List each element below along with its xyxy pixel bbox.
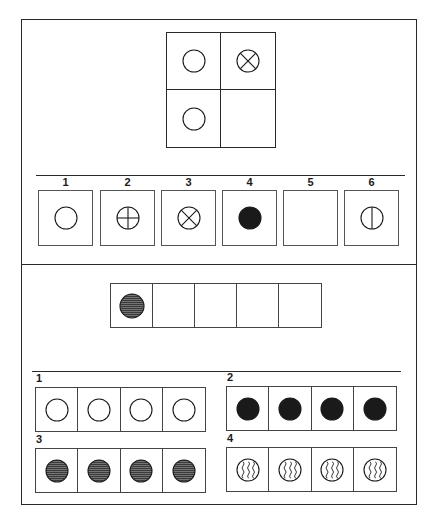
blank-icon bbox=[173, 305, 174, 306]
option-cell bbox=[121, 388, 163, 431]
blank-icon bbox=[310, 218, 311, 219]
circle-hatched-icon bbox=[86, 458, 112, 484]
circle-empty-icon bbox=[181, 48, 207, 74]
circle-empty-icon bbox=[44, 397, 70, 423]
answer-option-4[interactable] bbox=[226, 447, 397, 492]
sequence-cell bbox=[195, 284, 237, 327]
option-number: 4 bbox=[222, 176, 277, 188]
circle-hatched-icon bbox=[171, 458, 197, 484]
circle-filled-icon bbox=[277, 396, 303, 422]
circle-empty-icon bbox=[86, 397, 112, 423]
circle-filled-icon bbox=[235, 396, 261, 422]
circle-x-icon bbox=[235, 48, 261, 74]
answer-option-6[interactable] bbox=[344, 190, 399, 246]
circle-wavy-icon bbox=[319, 457, 345, 483]
option-cell bbox=[312, 387, 354, 430]
puzzle-2-options-rule bbox=[32, 371, 401, 372]
blank-icon bbox=[248, 118, 249, 119]
answer-option-1[interactable] bbox=[38, 190, 93, 246]
option-cell bbox=[227, 387, 269, 430]
circle-hatched-icon bbox=[44, 458, 70, 484]
section-divider bbox=[21, 264, 417, 265]
circle-filled-icon bbox=[237, 205, 263, 231]
circle-wavy-icon bbox=[277, 457, 303, 483]
option-cell bbox=[269, 387, 311, 430]
circle-filled-icon bbox=[319, 396, 345, 422]
option-cell bbox=[78, 388, 120, 431]
circle-wavy-icon bbox=[362, 457, 388, 483]
puzzle-1-matrix bbox=[166, 32, 276, 148]
option-cell bbox=[163, 388, 205, 431]
option-number: 6 bbox=[344, 176, 399, 188]
option-cell bbox=[36, 388, 78, 431]
sequence-cell bbox=[237, 284, 279, 327]
circle-hatched-icon bbox=[128, 458, 154, 484]
circle-empty-icon bbox=[181, 106, 207, 132]
circle-filled-icon bbox=[362, 396, 388, 422]
answer-option-2[interactable] bbox=[226, 386, 397, 431]
option-number: 2 bbox=[100, 176, 155, 188]
option-number: 1 bbox=[36, 372, 42, 384]
option-number: 4 bbox=[227, 432, 233, 444]
blank-icon bbox=[257, 305, 258, 306]
circle-cross-icon bbox=[115, 205, 141, 231]
sequence-cell bbox=[111, 284, 153, 327]
option-number: 1 bbox=[38, 176, 93, 188]
answer-option-2[interactable] bbox=[100, 190, 155, 246]
sequence-cell bbox=[153, 284, 195, 327]
answer-option-3[interactable] bbox=[35, 448, 206, 493]
option-number: 2 bbox=[227, 371, 233, 383]
puzzle-2-sequence bbox=[110, 283, 322, 328]
option-cell bbox=[354, 387, 396, 430]
option-cell bbox=[36, 449, 78, 492]
option-cell bbox=[78, 449, 120, 492]
option-cell bbox=[312, 448, 354, 491]
option-cell bbox=[227, 448, 269, 491]
option-number: 5 bbox=[283, 176, 338, 188]
circle-empty-icon bbox=[53, 205, 79, 231]
option-cell bbox=[269, 448, 311, 491]
answer-option-4[interactable] bbox=[222, 190, 277, 246]
option-number: 3 bbox=[36, 433, 42, 445]
circle-wavy-icon bbox=[235, 457, 261, 483]
blank-icon bbox=[215, 305, 216, 306]
option-cell bbox=[121, 449, 163, 492]
circle-hatched-icon bbox=[118, 292, 146, 320]
sequence-cell bbox=[279, 284, 321, 327]
option-number: 3 bbox=[161, 176, 216, 188]
answer-option-5[interactable] bbox=[283, 190, 338, 246]
matrix-cell bbox=[221, 90, 275, 147]
answer-option-3[interactable] bbox=[161, 190, 216, 246]
matrix-cell bbox=[167, 90, 221, 147]
circle-vertical-line-icon bbox=[359, 205, 385, 231]
answer-option-1[interactable] bbox=[35, 387, 206, 432]
circle-x-icon bbox=[176, 205, 202, 231]
matrix-cell bbox=[167, 33, 221, 90]
option-cell bbox=[354, 448, 396, 491]
circle-empty-icon bbox=[128, 397, 154, 423]
option-cell bbox=[163, 449, 205, 492]
circle-empty-icon bbox=[171, 397, 197, 423]
matrix-cell bbox=[221, 33, 275, 90]
blank-icon bbox=[300, 305, 301, 306]
